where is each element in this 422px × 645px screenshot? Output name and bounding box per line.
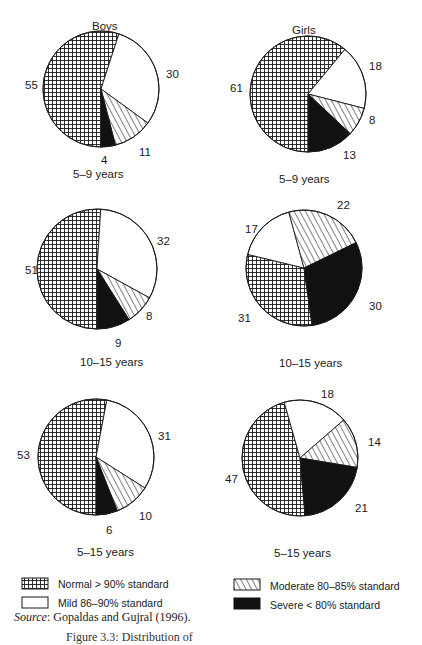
figure-caption: Figure 3.3: Distribution of xyxy=(66,630,193,645)
pie-value-label: 17 xyxy=(245,223,258,236)
pie-charts xyxy=(37,31,366,516)
source-prefix: Source xyxy=(14,610,47,624)
legend-label-severe: Severe < 80% standard xyxy=(270,599,380,611)
pie-value-label: 30 xyxy=(166,68,179,81)
pie-value-label: 10 xyxy=(139,510,152,523)
legend-swatch-severe xyxy=(234,598,260,609)
pie-value-label: 53 xyxy=(17,449,30,462)
pie-value-label: 47 xyxy=(225,473,238,486)
pie-value-label: 8 xyxy=(369,114,375,127)
pie-age-caption: 10–15 years xyxy=(80,356,143,369)
pie-value-label: 22 xyxy=(337,199,350,212)
pie-value-label: 32 xyxy=(157,235,170,248)
source-note: Source: Gopaldas and Gujral (1996). xyxy=(14,610,191,625)
pie-age-caption: 10–15 years xyxy=(279,357,342,370)
pie-value-label: 18 xyxy=(321,388,334,401)
pie-slice-normal xyxy=(37,209,101,329)
pie-value-label: 14 xyxy=(368,436,381,449)
pie-value-label: 18 xyxy=(369,60,382,73)
pie-value-label: 30 xyxy=(369,300,382,313)
pie-value-label: 4 xyxy=(101,154,107,167)
legend-label-normal: Normal > 90% standard xyxy=(58,578,169,590)
pie-value-label: 6 xyxy=(106,524,112,537)
pie-value-label: 21 xyxy=(355,502,368,515)
header-girls: Girls xyxy=(292,24,316,37)
pie-age-caption: 5–15 years xyxy=(274,547,331,560)
header-boys: Boys xyxy=(92,20,118,33)
pie-value-label: 9 xyxy=(115,337,121,350)
pie-slice-severe xyxy=(300,458,357,516)
pie-value-label: 55 xyxy=(25,79,38,92)
pie-value-label: 13 xyxy=(343,149,356,162)
legend-label-mild: Mild 86–90% standard xyxy=(58,597,162,609)
pie-age-caption: 5–9 years xyxy=(279,173,330,186)
pie-value-label: 8 xyxy=(146,310,152,323)
pie-value-label: 11 xyxy=(139,146,151,159)
pie-age-caption: 5–15 years xyxy=(77,546,134,559)
pie-age-caption: 5–9 years xyxy=(73,168,124,181)
legend-swatch-moderate xyxy=(234,579,260,590)
legend-swatch-mild xyxy=(22,597,48,608)
pie-value-label: 31 xyxy=(238,312,251,325)
pie-value-label: 51 xyxy=(25,264,38,277)
legend-swatch-normal xyxy=(22,578,48,589)
legend-label-moderate: Moderate 80–85% standard xyxy=(270,580,400,592)
pie-value-label: 61 xyxy=(230,82,243,95)
pie-value-label: 31 xyxy=(158,430,171,443)
source-text: : Gopaldas and Gujral (1996). xyxy=(47,610,191,624)
